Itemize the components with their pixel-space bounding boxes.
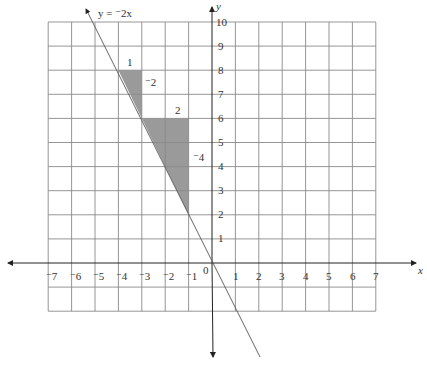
y-axis-label: y [215, 0, 221, 12]
x-tick: ⁻4 [116, 270, 128, 282]
y-tick: 4 [218, 160, 224, 172]
triangle-1-rise-label: ⁻2 [145, 76, 156, 88]
origin-label: 0 [203, 264, 209, 276]
x-tick: 6 [350, 270, 356, 282]
triangle-1-run-label: 1 [127, 56, 133, 68]
x-axis-label: x [417, 264, 423, 276]
y-tick: 6 [218, 112, 224, 124]
equation-label: y = ⁻2x [98, 7, 133, 19]
x-tick: 3 [279, 270, 285, 282]
y-tick: 7 [218, 88, 224, 100]
x-tick: ⁻5 [93, 270, 105, 282]
x-tick: ⁻1 [186, 270, 197, 282]
y-tick: 5 [218, 136, 224, 148]
triangle-2-run-label: 2 [175, 104, 181, 116]
y-tick: 3 [218, 184, 224, 196]
y-tick: 9 [218, 40, 224, 52]
y-tick-labels: 1 2 3 4 5 6 7 8 9 10 [216, 16, 228, 244]
y-tick: 8 [218, 64, 224, 76]
function-line [86, 9, 260, 357]
x-tick: 5 [326, 270, 332, 282]
x-tick: ⁻6 [70, 270, 82, 282]
x-tick: 2 [256, 270, 262, 282]
y-tick: 10 [216, 16, 228, 28]
x-tick: ⁻7 [46, 270, 58, 282]
y-tick: 2 [218, 208, 224, 220]
x-tick: ⁻2 [163, 270, 174, 282]
x-tick: ⁻3 [139, 270, 151, 282]
triangle-2-rise-label: ⁻4 [193, 151, 205, 163]
y-tick: 1 [218, 232, 224, 244]
x-tick: 1 [233, 270, 239, 282]
x-tick: 4 [303, 270, 309, 282]
x-tick: 7 [373, 270, 379, 282]
coordinate-plane: y = ⁻2x y x 0 ⁻7 ⁻6 ⁻5 ⁻4 ⁻3 ⁻2 ⁻1 1 2 3… [0, 0, 427, 370]
y-axis-negative [212, 263, 213, 357]
